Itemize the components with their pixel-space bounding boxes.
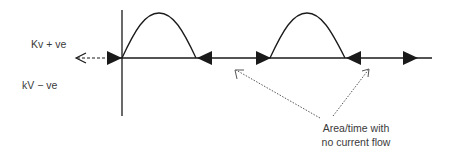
positive-half-wave-1: [122, 13, 196, 58]
arrow-right-icon: [107, 51, 122, 65]
annotation-line-1: Area/time with: [296, 121, 416, 135]
arrow-right-icon: [403, 51, 418, 65]
label-positive: Kv + ve: [31, 38, 66, 50]
annotation-pointer-left-head-icon: [235, 70, 244, 79]
arrow-left-icon: [197, 51, 212, 65]
positive-half-wave-2: [270, 13, 345, 58]
annotation-text: Area/time with no current flow: [296, 121, 416, 149]
annotation-line-2: no current flow: [296, 135, 416, 149]
label-negative: kV − ve: [22, 79, 57, 91]
annotation-pointer-left: [236, 70, 320, 118]
arrow-right-icon: [256, 51, 271, 65]
arrow-left-icon: [346, 51, 361, 65]
annotation-pointer-right: [333, 69, 369, 116]
